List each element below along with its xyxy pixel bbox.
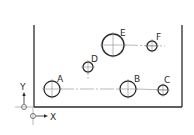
hole-E: E: [100, 28, 126, 58]
hole-label-A: A: [57, 74, 64, 84]
y-axis-indicator: Y: [15, 82, 34, 110]
hole-label-E: E: [120, 28, 126, 38]
hole-label-B: B: [134, 74, 140, 84]
hole-D: D: [81, 54, 98, 74]
y-axis-label: Y: [19, 82, 26, 92]
hole-label-F: F: [156, 32, 161, 42]
hole-label-C: C: [164, 75, 170, 85]
hole-B: B: [118, 74, 140, 99]
x-axis-label: X: [50, 112, 56, 122]
hole-pattern-diagram: A B C D E F Y: [0, 0, 194, 135]
hole-label-D: D: [91, 54, 98, 64]
hole-C: C: [156, 75, 170, 97]
hole-F: F: [145, 32, 161, 53]
arrow-up-icon: [22, 92, 25, 96]
hole-A: A: [42, 74, 64, 99]
arrow-right-icon: [44, 114, 48, 117]
x-axis-indicator: X: [31, 107, 57, 125]
